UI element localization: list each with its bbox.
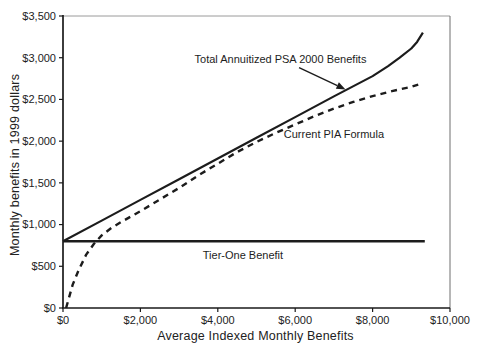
y-tick-label: $500 (32, 260, 56, 272)
y-tick-label: $1,500 (22, 177, 56, 189)
pia-series-line (66, 84, 421, 308)
y-tick-label: $1,000 (22, 218, 56, 230)
y-tick-label: $3,500 (22, 10, 56, 22)
x-axis-label: Average Indexed Monthly Benefits (157, 329, 354, 343)
x-tick-label: $0 (57, 314, 69, 326)
chart-figure: $0$500$1,000$1,500$2,000$2,500$3,000$3,5… (0, 0, 477, 357)
x-tick-label: $8,000 (356, 314, 390, 326)
tier-series-label: Tier-One Benefit (203, 249, 283, 261)
psa-series-label: Total Annuitized PSA 2000 Benefits (195, 53, 367, 65)
x-tick-label: $6,000 (278, 314, 312, 326)
y-tick-label: $2,500 (22, 93, 56, 105)
y-tick-label: $3,000 (22, 52, 56, 64)
pia-series-label: Current PIA Formula (284, 128, 384, 140)
annotation-arrow-head (336, 82, 346, 89)
y-axis-label: Monthly benefits in 1999 dollars (8, 74, 22, 256)
y-tick-label: $2,000 (22, 135, 56, 147)
x-tick-label: $2,000 (124, 314, 158, 326)
y-tick-label: $0 (44, 302, 56, 314)
x-tick-label: $10,000 (430, 314, 470, 326)
x-tick-label: $4,000 (201, 314, 235, 326)
annotation-arrow-line (299, 68, 337, 86)
